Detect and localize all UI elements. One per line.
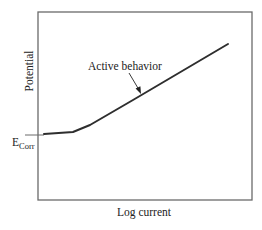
y-axis-label: Potential: [23, 51, 35, 92]
x-axis-label: Log current: [117, 206, 172, 219]
arrow-head-icon: [136, 86, 141, 94]
active-behavior-curve: [44, 44, 228, 134]
annotation-label: Active behavior: [88, 60, 162, 72]
polarization-diagram: Active behavior Potential Log current EC…: [0, 0, 262, 230]
ecorr-label-main: E: [12, 136, 19, 148]
annotation-arrow: [129, 73, 139, 89]
ecorr-label: ECorr: [12, 136, 35, 151]
plot-frame: [38, 12, 252, 200]
ecorr-label-subscript: Corr: [19, 141, 35, 151]
